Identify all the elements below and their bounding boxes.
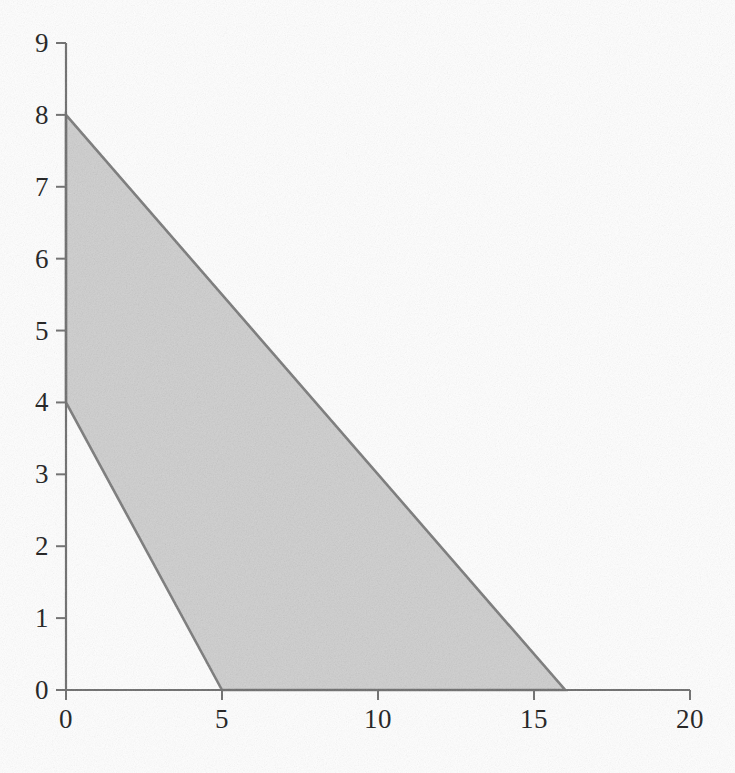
y-tick-label: 1 bbox=[35, 603, 49, 634]
y-tick-label: 2 bbox=[35, 531, 49, 562]
y-tick-label: 4 bbox=[35, 387, 49, 418]
y-tick-label: 7 bbox=[35, 171, 49, 202]
y-tick-label: 5 bbox=[35, 315, 49, 346]
y-tick-label: 0 bbox=[35, 675, 49, 706]
y-axis-ticks bbox=[56, 43, 66, 690]
y-tick-label: 8 bbox=[35, 99, 49, 130]
x-tick-label: 10 bbox=[364, 704, 392, 735]
chart-figure: 0123456789 05101520 bbox=[0, 0, 735, 773]
x-tick-label: 15 bbox=[520, 704, 548, 735]
x-tick-label: 5 bbox=[215, 704, 229, 735]
plot-area bbox=[0, 0, 735, 773]
x-axis-ticks bbox=[66, 690, 690, 700]
y-tick-label: 3 bbox=[35, 459, 49, 490]
feasible-region-group bbox=[66, 115, 565, 690]
y-tick-label: 9 bbox=[35, 28, 49, 59]
x-tick-label: 0 bbox=[59, 704, 73, 735]
y-tick-label: 6 bbox=[35, 243, 49, 274]
x-tick-label: 20 bbox=[676, 704, 704, 735]
